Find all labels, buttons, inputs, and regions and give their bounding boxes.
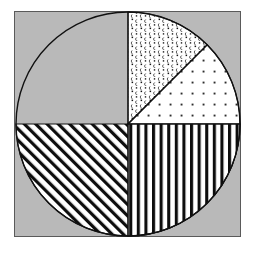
pie-slice-vertical-stripes[interactable] [128,124,240,236]
figure-canvas [0,0,253,253]
pie-chart [0,0,253,253]
